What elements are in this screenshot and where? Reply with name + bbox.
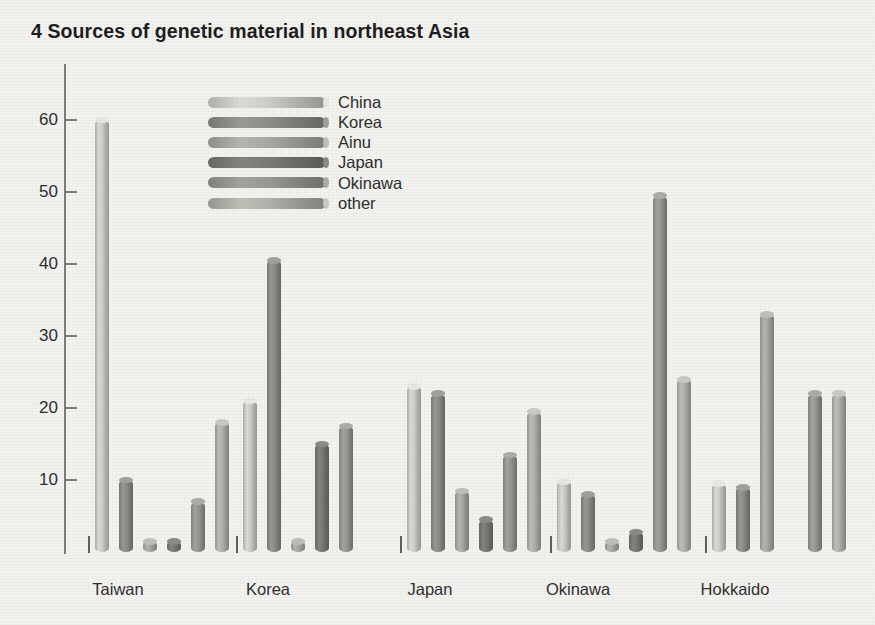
y-axis-tick (64, 263, 77, 265)
y-axis-tick-label-wrap: 60 (14, 110, 58, 130)
legend-label: Okinawa (338, 175, 402, 192)
y-axis-tick (64, 335, 77, 337)
y-axis-tick-label-wrap: 20 (14, 398, 58, 418)
legend-swatch-cap (323, 97, 329, 108)
bar-cap (581, 491, 595, 498)
bar-taiwan-china (95, 120, 109, 552)
bar-japan-japan (479, 520, 493, 552)
bar-okinawa-korea (581, 494, 595, 552)
y-axis-tick-label: 50 (18, 182, 58, 202)
bar-korea-japan (315, 444, 329, 552)
bar-cap (712, 480, 726, 487)
legend-item-ainu[interactable]: Ainu (208, 132, 402, 152)
legend-swatch-cap (323, 137, 329, 148)
bar-cap (339, 423, 353, 430)
bar-japan-ainu (455, 491, 469, 552)
legend-swatch-okinawa (208, 177, 326, 188)
y-axis-tick-label: 10 (18, 470, 58, 490)
chart-legend: ChinaKoreaAinuJapanOkinawaother (208, 92, 402, 213)
x-axis-label-taiwan: Taiwan (58, 580, 178, 599)
bar-cap (677, 376, 691, 383)
y-axis-tick-label-wrap: 40 (14, 254, 58, 274)
bar-cap (167, 538, 181, 545)
bar-cap (315, 441, 329, 448)
legend-swatch-ainu (208, 137, 326, 148)
bar-hokkaido-ainu (760, 314, 774, 552)
bar-cap (653, 192, 667, 199)
legend-swatch-cap (323, 157, 329, 168)
legend-label: Korea (338, 114, 382, 131)
legend-label: Ainu (338, 134, 371, 151)
legend-item-japan[interactable]: Japan (208, 153, 402, 173)
bar-hokkaido-korea (736, 487, 750, 552)
bar-okinawa-ainu (605, 541, 619, 552)
bar-cap (479, 516, 493, 523)
x-axis-label-okinawa: Okinawa (518, 580, 638, 599)
bar-cap (808, 390, 822, 397)
x-axis-label-japan: Japan (370, 580, 490, 599)
y-axis-tick-label-wrap: 30 (14, 326, 58, 346)
legend-swatch-cap (323, 117, 329, 128)
bar-cap (629, 529, 643, 536)
x-axis-label-korea: Korea (208, 580, 328, 599)
bar-japan-china (407, 386, 421, 552)
legend-item-korea[interactable]: Korea (208, 112, 402, 132)
legend-item-other[interactable]: other (208, 193, 402, 213)
bar-cap (605, 538, 619, 545)
legend-label: other (338, 195, 376, 212)
bar-okinawa-china (557, 481, 571, 552)
legend-swatch-cap (323, 177, 329, 188)
bar-korea-ainu (291, 541, 305, 552)
legend-swatch-cap (323, 198, 329, 209)
y-axis-tick-label: 30 (18, 326, 58, 346)
bar-cap (215, 419, 229, 426)
bar-cap (736, 484, 750, 491)
legend-item-china[interactable]: China (208, 92, 402, 112)
bar-okinawa-japan (629, 532, 643, 552)
y-axis-tick (64, 191, 77, 193)
bar-cap (832, 390, 846, 397)
chart-plot-area: 102030405060 TaiwanKoreaJapanOkinawaHokk… (0, 0, 875, 625)
legend-label: Japan (338, 154, 383, 171)
legend-swatch-china (208, 97, 326, 108)
legend-label: China (338, 94, 381, 111)
bar-okinawa-okinawa (653, 196, 667, 552)
legend-swatch-other (208, 198, 326, 209)
bar-okinawa-other (677, 379, 691, 552)
bar-cap (407, 383, 421, 390)
bar-hokkaido-other (832, 394, 846, 552)
legend-item-okinawa[interactable]: Okinawa (208, 173, 402, 193)
y-axis-tick-label: 60 (18, 110, 58, 130)
bar-cap (143, 538, 157, 545)
y-axis-tick-label: 40 (18, 254, 58, 274)
x-axis-group-tick (236, 536, 238, 553)
bar-hokkaido-okinawa (808, 394, 822, 552)
page-title: 4 Sources of genetic material in northea… (31, 20, 470, 43)
x-axis-group-tick (400, 536, 402, 553)
bar-taiwan-other (215, 422, 229, 552)
bar-japan-korea (431, 394, 445, 552)
y-axis-tick-label-wrap: 50 (14, 182, 58, 202)
bar-cap (527, 408, 541, 415)
bar-taiwan-japan (167, 541, 181, 552)
legend-swatch-korea (208, 117, 326, 128)
bar-taiwan-okinawa (191, 502, 205, 552)
y-axis-tick (64, 407, 77, 409)
bar-taiwan-korea (119, 480, 133, 552)
bar-cap (267, 257, 281, 264)
bar-cap (291, 538, 305, 545)
bar-cap (119, 477, 133, 484)
bar-korea-korea (267, 260, 281, 552)
bar-cap (243, 398, 257, 405)
y-axis-tick (64, 119, 77, 121)
x-axis-label-hokkaido: Hokkaido (675, 580, 795, 599)
bar-taiwan-ainu (143, 541, 157, 552)
y-axis-tick-label: 20 (18, 398, 58, 418)
bar-cap (557, 478, 571, 485)
bar-cap (503, 452, 517, 459)
bar-hokkaido-china (712, 484, 726, 552)
bar-cap (95, 117, 109, 124)
bar-cap (191, 498, 205, 505)
bar-cap (760, 311, 774, 318)
legend-swatch-japan (208, 157, 326, 168)
